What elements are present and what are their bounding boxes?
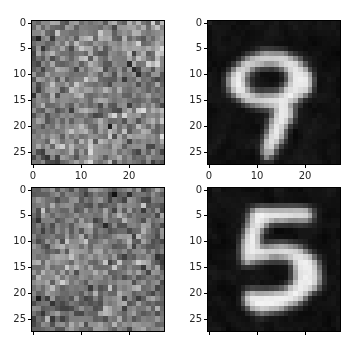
top-left-noise-image-spine-top [31, 20, 165, 21]
bottom-right-digit-image-yticklabel-25: 25 [177, 314, 202, 324]
bottom-left-noise-image-yticklabel-5: 5 [1, 210, 26, 220]
top-left-noise-image-ytick-15 [28, 100, 31, 101]
bottom-left-noise-image-xtick-0 [33, 332, 34, 335]
bottom-right-digit-image-xtick-0 [209, 332, 210, 335]
bottom-left-noise-image-ytick-10 [28, 241, 31, 242]
bottom-left-noise-image-yticklabel-15: 15 [1, 262, 26, 272]
subplot-top-right-digit-image: 051015202501020 [207, 20, 341, 165]
top-right-digit-image-ytick-15 [204, 100, 207, 101]
bottom-right-digit-image-yticklabel-10: 10 [177, 236, 202, 246]
bottom-left-noise-image-ytick-20 [28, 293, 31, 294]
top-left-noise-image-spine-right [164, 20, 165, 165]
bottom-right-digit-image-spine-top [207, 187, 341, 188]
top-left-noise-image [31, 20, 165, 165]
bottom-right-digit-image-ytick-0 [204, 190, 207, 191]
top-left-noise-image-ytick-0 [28, 23, 31, 24]
top-left-noise-image-xticklabel-10: 10 [61, 171, 101, 181]
bottom-right-digit-image-ytick-5 [204, 215, 207, 216]
top-left-noise-image-xtick-10 [81, 165, 82, 168]
bottom-right-digit-image-pixels [207, 187, 341, 332]
figure-canvas: 0510152025010200510152025010200510152025… [0, 0, 359, 348]
top-left-noise-image-ytick-5 [28, 48, 31, 49]
bottom-right-digit-image-ytick-10 [204, 241, 207, 242]
top-right-digit-image-yticklabel-25: 25 [177, 147, 202, 157]
bottom-right-digit-image-spine-bottom [207, 331, 341, 332]
bottom-left-noise-image-pixels [31, 187, 165, 332]
top-right-digit-image-xticklabel-10: 10 [237, 171, 277, 181]
top-right-digit-image-ytick-10 [204, 74, 207, 75]
bottom-right-digit-image-ytick-20 [204, 293, 207, 294]
bottom-right-digit-image [207, 187, 341, 332]
bottom-left-noise-image-ytick-5 [28, 215, 31, 216]
top-left-noise-image-xtick-0 [33, 165, 34, 168]
top-left-noise-image-xticklabel-20: 20 [109, 171, 149, 181]
top-left-noise-image-yticklabel-25: 25 [1, 147, 26, 157]
subplot-top-left-noise-image: 051015202501020 [31, 20, 165, 165]
top-left-noise-image-yticklabel-10: 10 [1, 69, 26, 79]
bottom-right-digit-image-xtick-20 [305, 332, 306, 335]
top-right-digit-image-xticklabel-20: 20 [285, 171, 325, 181]
bottom-left-noise-image-yticklabel-10: 10 [1, 236, 26, 246]
bottom-left-noise-image [31, 187, 165, 332]
bottom-left-noise-image-spine-bottom [31, 331, 165, 332]
top-left-noise-image-ytick-20 [28, 126, 31, 127]
top-right-digit-image-yticklabel-20: 20 [177, 121, 202, 131]
bottom-right-digit-image-yticklabel-15: 15 [177, 262, 202, 272]
bottom-right-digit-image-ytick-25 [204, 319, 207, 320]
top-left-noise-image-pixels [31, 20, 165, 165]
top-right-digit-image-xtick-20 [305, 165, 306, 168]
top-right-digit-image-yticklabel-10: 10 [177, 69, 202, 79]
subplot-bottom-left-noise-image: 0510152025 [31, 187, 165, 332]
bottom-left-noise-image-ytick-0 [28, 190, 31, 191]
top-right-digit-image-pixels [207, 20, 341, 165]
bottom-right-digit-image-ytick-15 [204, 267, 207, 268]
bottom-left-noise-image-spine-top [31, 187, 165, 188]
bottom-right-digit-image-xtick-10 [257, 332, 258, 335]
top-left-noise-image-xticklabel-0: 0 [13, 171, 53, 181]
top-right-digit-image-ytick-5 [204, 48, 207, 49]
bottom-left-noise-image-xtick-20 [129, 332, 130, 335]
bottom-right-digit-image-spine-right [340, 187, 341, 332]
top-right-digit-image-spine-right [340, 20, 341, 165]
top-right-digit-image-xtick-0 [209, 165, 210, 168]
top-left-noise-image-yticklabel-15: 15 [1, 95, 26, 105]
bottom-right-digit-image-spine-left [207, 187, 208, 332]
top-right-digit-image-spine-left [207, 20, 208, 165]
top-right-digit-image-xticklabel-0: 0 [189, 171, 229, 181]
subplot-bottom-right-digit-image: 0510152025 [207, 187, 341, 332]
top-right-digit-image-xtick-10 [257, 165, 258, 168]
top-left-noise-image-yticklabel-5: 5 [1, 43, 26, 53]
top-right-digit-image-spine-top [207, 20, 341, 21]
top-left-noise-image-spine-left [31, 20, 32, 165]
top-left-noise-image-spine-bottom [31, 164, 165, 165]
top-left-noise-image-ytick-10 [28, 74, 31, 75]
top-right-digit-image-yticklabel-15: 15 [177, 95, 202, 105]
bottom-right-digit-image-yticklabel-0: 0 [177, 185, 202, 195]
bottom-left-noise-image-spine-right [164, 187, 165, 332]
bottom-left-noise-image-spine-left [31, 187, 32, 332]
bottom-left-noise-image-ytick-15 [28, 267, 31, 268]
bottom-left-noise-image-yticklabel-25: 25 [1, 314, 26, 324]
top-left-noise-image-ytick-25 [28, 152, 31, 153]
bottom-left-noise-image-xtick-10 [81, 332, 82, 335]
top-left-noise-image-yticklabel-0: 0 [1, 18, 26, 28]
bottom-left-noise-image-ytick-25 [28, 319, 31, 320]
top-right-digit-image-yticklabel-0: 0 [177, 18, 202, 28]
top-left-noise-image-yticklabel-20: 20 [1, 121, 26, 131]
bottom-left-noise-image-yticklabel-20: 20 [1, 288, 26, 298]
bottom-left-noise-image-yticklabel-0: 0 [1, 185, 26, 195]
bottom-right-digit-image-yticklabel-20: 20 [177, 288, 202, 298]
top-right-digit-image-spine-bottom [207, 164, 341, 165]
top-right-digit-image [207, 20, 341, 165]
top-left-noise-image-xtick-20 [129, 165, 130, 168]
top-right-digit-image-ytick-0 [204, 23, 207, 24]
top-right-digit-image-ytick-20 [204, 126, 207, 127]
bottom-right-digit-image-yticklabel-5: 5 [177, 210, 202, 220]
top-right-digit-image-ytick-25 [204, 152, 207, 153]
top-right-digit-image-yticklabel-5: 5 [177, 43, 202, 53]
